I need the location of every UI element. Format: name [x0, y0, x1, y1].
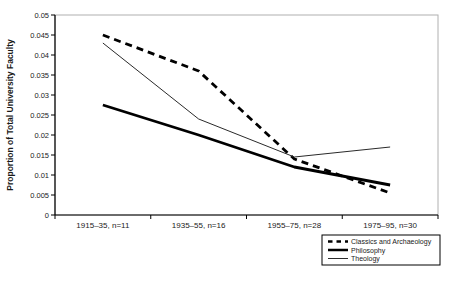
y-axis-tick-label: 0.01: [34, 171, 49, 180]
y-axis-tick-label: 0.02: [34, 131, 49, 140]
y-axis-tick-label: 0.015: [30, 151, 49, 160]
x-axis-category-label: 1955–75, n=28: [268, 221, 322, 230]
legend-label: Theology: [351, 255, 380, 263]
y-axis-tick-label: 0.05: [34, 11, 49, 20]
y-axis-tick-label: 0.045: [30, 31, 49, 40]
y-axis-tick-label: 0.035: [30, 71, 49, 80]
faculty-proportion-line-chart: 00.0050.010.0150.020.0250.030.0350.040.0…: [0, 0, 460, 285]
y-axis-tick-label: 0.005: [30, 191, 49, 200]
chart-canvas: 00.0050.010.0150.020.0250.030.0350.040.0…: [0, 0, 460, 285]
y-axis-tick-label: 0.025: [30, 111, 49, 120]
x-axis-category-label: 1915–35, n=11: [76, 221, 130, 230]
y-axis-tick-label: 0.03: [34, 91, 49, 100]
x-axis-category-label: 1935–55, n=16: [172, 221, 226, 230]
y-axis-title: Proportion of Total University Faculty: [5, 39, 15, 191]
y-axis-tick-label: 0: [45, 211, 49, 220]
y-axis-tick-label: 0.04: [34, 51, 49, 60]
legend-label: Classics and Archaeology: [351, 238, 432, 246]
plot-area: [55, 15, 438, 215]
x-axis-category-label: 1975–95, n=30: [363, 221, 417, 230]
legend-label: Philosophy: [351, 247, 386, 255]
